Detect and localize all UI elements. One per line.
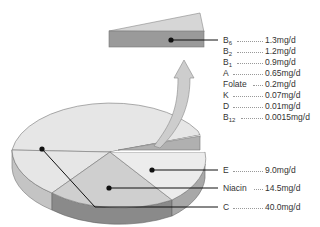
exploded-slice	[109, 13, 218, 47]
